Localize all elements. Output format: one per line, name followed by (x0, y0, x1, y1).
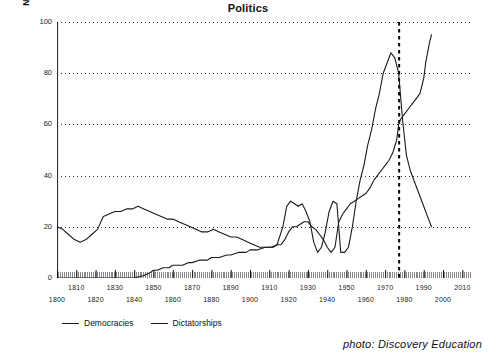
legend-line-icon (62, 323, 79, 324)
y-axis-tick-label: 60 (44, 121, 52, 129)
y-axis-tick-label: 80 (44, 69, 52, 77)
page-title: Politics (0, 2, 496, 14)
x-axis-tick-label: 1880 (203, 296, 219, 303)
legend-line-icon (151, 323, 168, 324)
y-axis-tick-label: 0 (48, 274, 52, 282)
x-axis-tick-label: 1950 (338, 284, 354, 291)
series-line-democracies (57, 35, 431, 278)
plot-area: Number of Countries (Population > 500, 0… (57, 22, 472, 278)
x-axis-tick-label: 1810 (68, 284, 84, 291)
x-axis-tick-label: 1890 (223, 284, 239, 291)
photo-credit: photo: Discovery Education (343, 338, 482, 350)
x-axis-tick-label: 1800 (49, 296, 65, 303)
legend-item-dictatorships[interactable]: Dictatorships (151, 318, 222, 328)
x-axis-tick-label: 1900 (242, 296, 258, 303)
x-axis-tick-label: 1830 (107, 284, 123, 291)
x-axis-minor-ticks (57, 272, 472, 278)
x-axis-major-ticks (58, 270, 463, 278)
x-axis-tick-label: 1970 (377, 284, 393, 291)
y-axis-tick-label: 100 (39, 18, 52, 26)
x-axis-tick-label: 1860 (165, 296, 181, 303)
series-line-dictatorships (57, 53, 431, 253)
x-axis-tick-label: 2000 (435, 296, 451, 303)
legend-item-democracies[interactable]: Democracies (62, 318, 134, 328)
chart-svg (57, 22, 472, 278)
x-axis-tick-label: 2010 (454, 284, 470, 291)
x-axis-tick-label: 1940 (319, 296, 335, 303)
x-axis-tick-label: 1920 (280, 296, 296, 303)
x-axis-tick-label: 1840 (126, 296, 142, 303)
legend-label: Democracies (84, 318, 134, 328)
x-axis-tick-label: 1980 (396, 296, 412, 303)
x-axis-tick-label: 1850 (145, 284, 161, 291)
x-axis-tick-label: 1820 (87, 296, 103, 303)
y-axis-title-label: Number of Countries (Population > 500, 0… (19, 0, 33, 38)
x-axis-tick-label: 1990 (416, 284, 432, 291)
x-axis-tick-label: 1930 (300, 284, 316, 291)
y-axis-tick-label: 20 (44, 223, 52, 231)
y-axis-tick-label: 40 (44, 172, 52, 180)
legend: Democracies Dictatorships (62, 318, 222, 328)
y-axis-title: Number of Countries (Population > 500, 0… (19, 0, 33, 38)
chart-page: Politics Number of Countries (Population… (0, 0, 496, 362)
x-axis-tick-label: 1910 (261, 284, 277, 291)
x-axis-tick-label: 1870 (184, 284, 200, 291)
x-axis-tick-label: 1960 (358, 296, 374, 303)
legend-label: Dictatorships (173, 318, 222, 328)
